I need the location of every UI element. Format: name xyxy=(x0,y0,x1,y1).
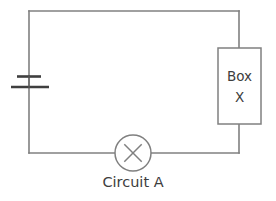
battery-symbol xyxy=(11,76,49,88)
circuit-caption: Circuit A xyxy=(102,174,163,190)
circuit-diagram-canvas: Box X Circuit A xyxy=(0,0,276,201)
circuit-loop-wires xyxy=(29,11,239,153)
lamp-symbol xyxy=(115,135,151,171)
circuit-diagram: Box X Circuit A xyxy=(0,0,276,201)
box-x-label-line-1: Box xyxy=(227,68,252,84)
box-x-outline xyxy=(218,48,261,124)
box-x-component: Box X xyxy=(218,48,261,124)
box-x-label-line-2: X xyxy=(235,89,244,105)
